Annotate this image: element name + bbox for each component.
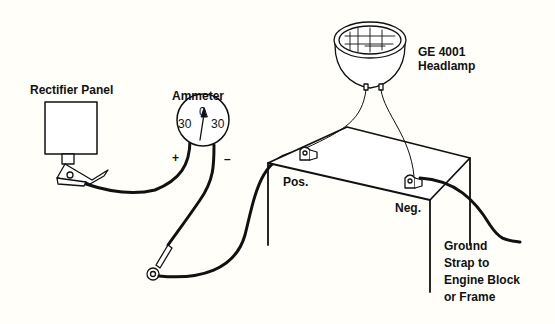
headlamp-label-line2: Headlamp [418, 60, 475, 73]
minus-sign: – [224, 153, 231, 166]
ground-label-line3: Engine Block [444, 274, 520, 287]
ground-label-line1: Ground [444, 240, 487, 253]
ammeter-scale-left: 30 [178, 118, 191, 131]
wire-rectifier-to-ammeter [86, 140, 190, 192]
alligator-clip-icon [57, 164, 108, 186]
wiring-diagram: Rectifier Panel Ammeter 30 0 30 + – GE 4… [0, 0, 555, 324]
battery-box [268, 127, 470, 292]
headlamp-icon [334, 22, 406, 90]
ground-label-line2: Strap to [444, 257, 489, 270]
rectifier-panel-stem [62, 154, 74, 164]
rectifier-panel-box [45, 102, 97, 154]
ground-label-line4: or Frame [444, 291, 495, 304]
ammeter-scale-right: 30 [211, 118, 224, 131]
headlamp-label-line1: GE 4001 [418, 46, 465, 59]
ammeter-scale-zero: 0 [199, 106, 206, 119]
rectifier-panel-label: Rectifier Panel [30, 84, 113, 97]
plus-sign: + [172, 152, 179, 165]
pos-label: Pos. [283, 176, 308, 189]
neg-label: Neg. [395, 202, 421, 215]
ammeter-label: Ammeter [172, 90, 224, 103]
